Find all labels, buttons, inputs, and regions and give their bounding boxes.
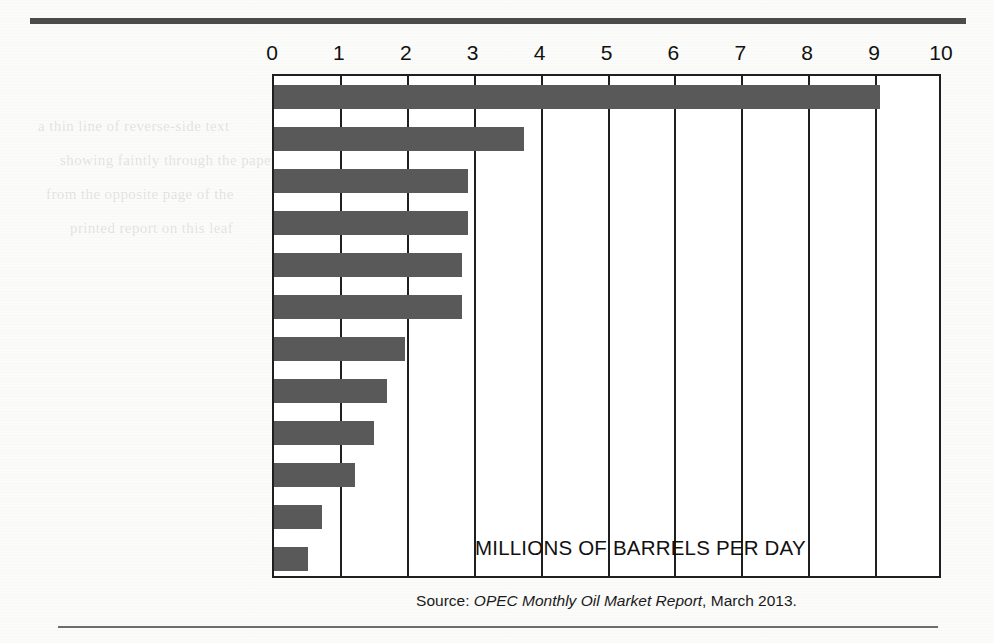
x-tick-label: 1 bbox=[319, 41, 359, 65]
bar-row bbox=[274, 328, 939, 370]
x-tick-label: 8 bbox=[787, 41, 827, 65]
bar bbox=[274, 211, 468, 235]
bar-row bbox=[274, 286, 939, 328]
bar bbox=[274, 85, 880, 109]
x-tick-label: 5 bbox=[587, 41, 627, 65]
bar-row bbox=[274, 244, 939, 286]
source-prefix: Source: bbox=[416, 592, 474, 609]
x-tick-label: 3 bbox=[453, 41, 493, 65]
bar bbox=[274, 337, 405, 361]
bar-row bbox=[274, 370, 939, 412]
x-tick-label: 6 bbox=[653, 41, 693, 65]
bar bbox=[274, 169, 468, 193]
bar bbox=[274, 253, 462, 277]
x-tick-label: 0 bbox=[252, 41, 292, 65]
bar bbox=[274, 463, 355, 487]
bar-row bbox=[274, 118, 939, 160]
x-tick-label: 7 bbox=[720, 41, 760, 65]
x-tick-label: 2 bbox=[386, 41, 426, 65]
bar-row bbox=[274, 160, 939, 202]
source-suffix: , March 2013. bbox=[702, 592, 797, 609]
bar bbox=[274, 547, 308, 571]
source-publication: OPEC Monthly Oil Market Report bbox=[474, 592, 702, 609]
bar-row bbox=[274, 202, 939, 244]
x-tick-label: 4 bbox=[520, 41, 560, 65]
source-note: Source: OPEC Monthly Oil Market Report, … bbox=[272, 592, 941, 610]
x-tick-label: 9 bbox=[854, 41, 894, 65]
plot-area: MILLIONS OF BARRELS PER DAY bbox=[272, 74, 941, 578]
bar bbox=[274, 127, 524, 151]
bar-row bbox=[274, 76, 939, 118]
x-tick-label: 10 bbox=[921, 41, 961, 65]
bar-chart: 012345678910 Saudi ArabiaIranIraqKuwaitU… bbox=[0, 0, 994, 643]
bar-row bbox=[274, 412, 939, 454]
bar-row bbox=[274, 496, 939, 538]
bar bbox=[274, 379, 387, 403]
bar bbox=[274, 421, 374, 445]
bar bbox=[274, 295, 462, 319]
bar bbox=[274, 505, 322, 529]
chart-annotation: MILLIONS OF BARRELS PER DAY bbox=[475, 536, 806, 560]
bar-row bbox=[274, 454, 939, 496]
